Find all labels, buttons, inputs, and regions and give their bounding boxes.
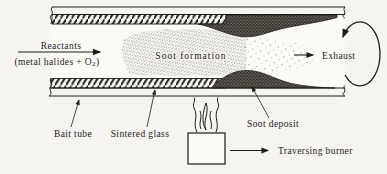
bait-tube-label: Bait tube bbox=[54, 129, 92, 139]
formula-pre: (metal halides + O bbox=[14, 57, 92, 68]
soot-formation-label: Soot formation bbox=[155, 51, 226, 61]
leader-lines bbox=[71, 87, 269, 127]
burner-box bbox=[188, 133, 225, 164]
traversing-burner-label: Traversing burner bbox=[278, 146, 353, 156]
flame-icon bbox=[193, 98, 218, 133]
soot-deposit-label: Soot deposit bbox=[247, 119, 299, 129]
bait-tube-leader bbox=[71, 100, 79, 127]
traversing-burner-group: Traversing burner bbox=[188, 98, 353, 165]
exhaust-label: Exhaust bbox=[322, 51, 355, 61]
soot-deposit-leader bbox=[252, 87, 269, 118]
soot-deposition-diagram: Reactants (metal halides + O2) Soot form… bbox=[0, 0, 387, 174]
diagram-canvas: Reactants (metal halides + O2) Soot form… bbox=[0, 0, 387, 174]
formula-post: ) bbox=[96, 57, 100, 68]
reactants-label: Reactants bbox=[41, 41, 82, 51]
sintered-glass-label: Sintered glass bbox=[111, 129, 170, 139]
